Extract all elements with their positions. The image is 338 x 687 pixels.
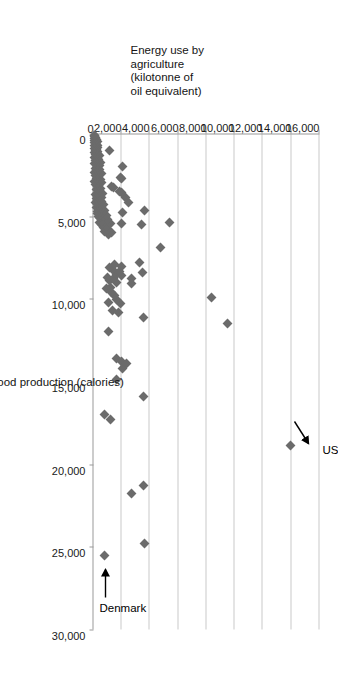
y-axis-title-line-1: Energy use by: [130, 43, 250, 57]
x-tick-mark: [89, 629, 93, 630]
gridline: [290, 133, 291, 629]
y-tick-label: 2,000: [94, 122, 122, 134]
plot-area: [93, 133, 319, 629]
x-tick-mark: [89, 464, 93, 465]
gridline: [177, 133, 178, 629]
gridline: [262, 133, 263, 629]
x-tick-label: 25,000: [51, 546, 85, 558]
x-tick-label: 10,000: [51, 298, 85, 310]
x-tick-mark: [89, 298, 93, 299]
y-tick-label: 16,000: [285, 122, 319, 134]
y-tick-label: 4,000: [122, 122, 150, 134]
x-tick-label: 30,000: [51, 629, 85, 641]
x-tick-label: 20,000: [51, 464, 85, 476]
x-axis-title: Per capita food production (calories): [25, 133, 37, 629]
gridline: [233, 133, 234, 629]
annotation-us-arrow-icon: [276, 417, 316, 457]
x-axis-title-text: Per capita food production (calories): [0, 375, 123, 387]
gridline: [318, 133, 319, 629]
y-tick-mark: [318, 129, 319, 133]
x-tick-label: 5,000: [57, 216, 85, 228]
y-axis-title-line-3: (kilotonne of: [130, 70, 250, 84]
x-tick-label: 0: [79, 133, 85, 145]
y-axis-title-line-4: oil equivalent): [130, 84, 250, 98]
y-axis-title: Energy use by agriculture (kilotonne of …: [163, 10, 217, 130]
annotation-denmark-arrow-icon: [89, 561, 119, 607]
y-tick-mark: [149, 129, 150, 133]
annotation-us-label: US: [322, 443, 338, 455]
x-tick-mark: [89, 546, 93, 547]
y-axis-title-line-2: agriculture: [130, 57, 250, 71]
gridline: [205, 133, 206, 629]
gridline: [149, 133, 150, 629]
